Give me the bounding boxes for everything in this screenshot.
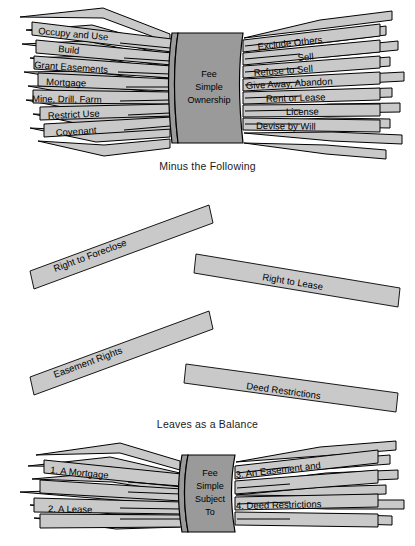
bundle-of-rights-diagram: .bar{fill:#c9c9c9;stroke:#000;stroke-wid… [0,0,415,546]
label-devise-by-will: Devise by Will [256,120,316,132]
bottom-left-sticks [20,443,182,529]
hub-line-3: Ownership [187,95,230,105]
label-build: Build [58,43,80,56]
label-sell: Sell [297,51,314,63]
bottom-hub-line-2: Simple [196,481,224,491]
bar-deed-restrictions: Deed Restrictions [184,364,398,412]
bottom-bundle: 1. A Mortgage 2. A Lease 3. An Easement … [20,441,404,532]
bottom-hub-line-4: To [205,507,215,517]
label-a-lease: 2. A Lease [48,503,93,515]
caption-minus-the-following: Minus the Following [0,160,415,172]
bottom-right-sticks [235,441,404,527]
hub-line-2: Simple [195,82,223,92]
label-mine-drill-farm: Mine, Drill, Farm [32,93,102,105]
hub-line-1: Fee [201,69,217,79]
bar-right-to-lease: Right to Lease [194,254,400,307]
label-deed-restrictions-4: 4. Deed Restrictions [236,498,322,511]
bottom-hub-line-3: Subject [195,494,226,504]
bottom-hub-line-1: Fee [202,468,218,478]
bar-right-to-foreclose: Right to Foreclose [30,205,213,289]
bottom-stick-spacer2 [40,514,182,528]
top-bundle: Occupy and Use Build Grant Easements Mor… [20,8,404,159]
label-rent-or-lease: Rent or Lease [266,91,326,104]
caption-leaves-as-a-balance: Leaves as a Balance [0,418,415,430]
middle-bars: Right to Foreclose Right to Lease Easeme… [30,205,400,412]
label-mortgage: Mortgage [46,76,87,89]
diagram-canvas: .bar{fill:#c9c9c9;stroke:#000;stroke-wid… [0,0,415,546]
label-license: License [286,106,319,117]
